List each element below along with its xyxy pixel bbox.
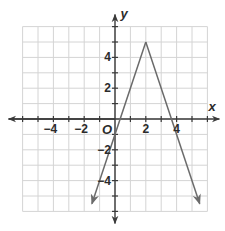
origin-label: O xyxy=(102,122,112,137)
y-tick-label: −4 xyxy=(97,174,111,188)
y-tick-label: 4 xyxy=(104,50,111,64)
x-tick-label: −2 xyxy=(74,122,88,136)
x-axis-label: x xyxy=(207,99,216,114)
axes xyxy=(9,15,220,224)
y-axis-label: y xyxy=(119,6,128,21)
x-tick-label: 2 xyxy=(142,122,149,136)
coordinate-plane: x y O −4−22442−2−4 xyxy=(0,0,225,231)
x-tick-label: −4 xyxy=(44,122,58,136)
y-tick-label: −2 xyxy=(97,143,111,157)
x-tick-label: 4 xyxy=(173,122,180,136)
y-tick-label: 2 xyxy=(104,81,111,95)
